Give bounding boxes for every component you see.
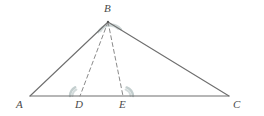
vertex-label-E: E [119, 99, 126, 110]
cevian-BD [80, 22, 108, 96]
vertex-label-A: A [16, 99, 23, 110]
geometry-figure: A B C D E [0, 0, 264, 116]
side-AB [30, 22, 108, 96]
vertex-label-D: D [75, 99, 83, 110]
cevian-BE [108, 22, 123, 96]
vertex-B-dot [107, 21, 109, 23]
geometry-canvas [0, 0, 264, 116]
vertex-label-B: B [104, 3, 111, 14]
side-BC [108, 22, 229, 96]
vertex-label-C: C [233, 99, 241, 110]
